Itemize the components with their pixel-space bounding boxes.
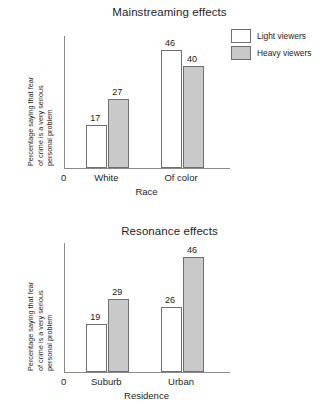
bar-suburb-light-viewers (86, 324, 107, 372)
bar-value-label: 17 (90, 113, 100, 123)
bar-suburb-heavy-viewers (108, 299, 129, 372)
plot-area (64, 36, 230, 169)
chart-title: Mainstreaming effects (0, 6, 333, 18)
bar-value-label: 26 (165, 295, 175, 305)
legend-swatch-light-icon (231, 29, 251, 43)
y-axis-label-line-3: personal problem (45, 77, 55, 166)
y-axis-label-line-2: of crime is a very serious (36, 282, 46, 371)
bar-urban-heavy-viewers (183, 257, 204, 372)
legend-swatch-heavy-icon (231, 46, 251, 60)
legend-label: Light viewers (257, 31, 306, 41)
y-axis-origin-label: 0 (61, 376, 66, 387)
legend-label: Heavy viewers (257, 48, 311, 58)
x-axis-tick-label: Suburb (91, 376, 122, 387)
y-axis-label: Percentage saying that fear of crime is … (26, 282, 55, 371)
chart-title: Resonance effects (0, 225, 333, 237)
chart-resonance-effects: Resonance effects Percentage saying that… (0, 203, 333, 406)
x-axis-title: Residence (64, 390, 229, 401)
bar-of-color-light-viewers (161, 50, 182, 168)
plot-area (64, 243, 230, 373)
bar-white-light-viewers (86, 125, 107, 168)
x-axis-title: Race (64, 186, 229, 197)
y-axis-origin-label: 0 (61, 172, 66, 183)
y-axis-label: Percentage saying that fear of crime is … (26, 77, 55, 166)
x-axis-tick-label: Urban (168, 376, 194, 387)
bar-value-label: 46 (187, 245, 197, 255)
legend-item-light-viewers: Light viewers (231, 29, 311, 43)
x-axis-tick-label: White (94, 172, 118, 183)
bar-white-heavy-viewers (108, 99, 129, 168)
y-axis-label-line-1: Percentage saying that fear (26, 77, 36, 166)
y-axis-label-line-2: of crime is a very serious (36, 77, 46, 166)
y-axis-label-line-3: personal problem (45, 282, 55, 371)
bar-value-label: 19 (90, 312, 100, 322)
bar-value-label: 27 (112, 87, 122, 97)
bar-urban-light-viewers (161, 307, 182, 372)
figure-page: Mainstreaming effects Percentage saying … (0, 0, 333, 406)
x-axis-tick-label: Of color (164, 172, 197, 183)
bar-value-label: 46 (165, 38, 175, 48)
bar-value-label: 40 (187, 54, 197, 64)
bar-of-color-heavy-viewers (183, 66, 204, 168)
legend: Light viewers Heavy viewers (231, 29, 311, 60)
y-axis-label-line-1: Percentage saying that fear (26, 282, 36, 371)
bar-value-label: 29 (112, 287, 122, 297)
legend-item-heavy-viewers: Heavy viewers (231, 46, 311, 60)
